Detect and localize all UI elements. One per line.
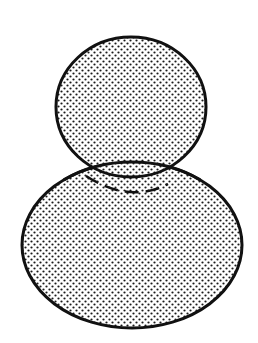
diagram-canvas (0, 0, 258, 343)
top-circle (56, 37, 206, 177)
overlapping-ellipses-diagram (0, 0, 258, 343)
bottom-ellipse (22, 162, 242, 328)
